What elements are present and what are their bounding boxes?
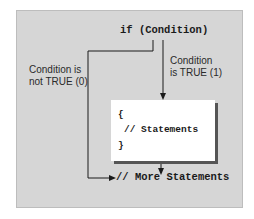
open-brace: { [118, 109, 124, 120]
statements-block: { // Statements } [111, 100, 215, 161]
false-label-line2: not TRUE (0) [29, 76, 88, 88]
arrow-head-false [109, 175, 116, 181]
close-brace: } [118, 140, 124, 151]
true-label-line2: is TRUE (1) [170, 67, 222, 79]
false-label-line1: Condition is [29, 64, 81, 76]
more-statements-code: // More Statements [116, 171, 229, 183]
if-condition-code: if (Condition) [120, 24, 208, 36]
statements-code: // Statements [124, 124, 198, 135]
arrow-head-true [160, 93, 166, 100]
true-label-line1: Condition [170, 55, 212, 67]
